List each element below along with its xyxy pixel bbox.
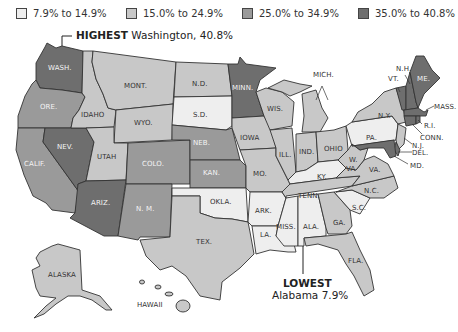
- lowest-value: Alabama 7.9%: [272, 289, 348, 301]
- label-neb: NEB.: [193, 139, 210, 147]
- label-nev: NEV.: [57, 143, 73, 151]
- label-miss: MISS.: [276, 223, 296, 231]
- label-la: LA.: [260, 231, 271, 239]
- label-hawaii: HAWAII: [137, 301, 163, 309]
- label-mont: MONT.: [124, 82, 147, 90]
- label-ind: IND.: [299, 148, 314, 156]
- label-sc: S.C.: [352, 204, 366, 212]
- us-choropleth-map: WASH. ORE. CALIF. NEV. IDAHO MONT. WYO. …: [0, 0, 458, 332]
- state-michigan-lower: [302, 90, 328, 132]
- label-nc: N.C.: [364, 187, 379, 195]
- label-nm: N. M.: [136, 205, 154, 213]
- state-hawaii-kauai: [140, 280, 145, 284]
- label-ark: ARK.: [255, 207, 272, 215]
- label-iowa: IOWA: [240, 134, 259, 142]
- md-leader-line: [394, 156, 408, 164]
- label-md: MD.: [410, 162, 424, 170]
- label-ga: GA.: [333, 219, 346, 227]
- label-del: DEL.: [412, 149, 428, 157]
- label-minn: MINN.: [232, 84, 253, 92]
- label-okla: OKLA.: [210, 198, 232, 206]
- label-va: VA.: [369, 166, 381, 174]
- label-mich: MICH.: [313, 71, 334, 79]
- label-sd: S.D.: [193, 111, 208, 119]
- mass-leader-line: [426, 106, 434, 110]
- label-mass: MASS.: [434, 103, 456, 111]
- label-utah: UTAH: [97, 153, 116, 161]
- label-wis: WIS.: [267, 105, 283, 113]
- label-fla: FLA.: [348, 257, 363, 265]
- label-colo: COLO.: [142, 160, 164, 168]
- label-ore: ORE.: [40, 103, 57, 111]
- label-ariz: ARIZ.: [91, 199, 110, 207]
- label-conn: CONN.: [420, 134, 444, 142]
- label-ky: KY.: [317, 173, 327, 181]
- label-vt: VT.: [388, 75, 399, 83]
- lowest-label: LOWEST: [283, 277, 348, 289]
- label-me: ME.: [417, 75, 430, 83]
- label-pa: PA.: [366, 134, 377, 142]
- label-tex: TEX.: [195, 238, 212, 246]
- label-wva-1: W.: [349, 156, 358, 164]
- label-ohio: OHIO: [324, 145, 343, 153]
- state-connecticut: [404, 116, 416, 126]
- highest-value: Washington, 40.8%: [131, 29, 233, 41]
- label-wva-2: VA: [346, 165, 355, 173]
- label-ala: ALA.: [303, 223, 319, 231]
- state-arizona: [70, 180, 126, 236]
- label-kan: KAN.: [203, 169, 220, 177]
- label-nh: N.H.: [396, 65, 411, 73]
- lowest-callout: LOWEST Alabama 7.9%: [282, 277, 348, 301]
- label-tenn: TENN.: [297, 192, 320, 200]
- label-wyo: WYO.: [134, 119, 153, 127]
- highest-callout: HIGHEST Washington, 40.8%: [76, 29, 233, 41]
- state-hawaii-maui: [165, 292, 173, 296]
- label-ny: N.Y.: [378, 112, 391, 120]
- nj-leader-line: [404, 138, 412, 144]
- label-ill: ILL.: [279, 151, 292, 159]
- label-wash: WASH.: [48, 64, 72, 72]
- label-alaska: ALASKA: [48, 271, 76, 279]
- label-mo: MO.: [253, 170, 267, 178]
- state-massachusetts: [404, 108, 428, 116]
- label-nd: N.D.: [192, 80, 207, 88]
- label-idaho: IDAHO: [81, 111, 105, 119]
- state-hawaii-island: [176, 300, 190, 312]
- state-hawaii-oahu: [155, 285, 161, 289]
- label-calif: CALIF.: [24, 160, 45, 168]
- label-ri: R.I.: [424, 122, 436, 130]
- state-alaska: [32, 244, 112, 318]
- highest-leader-line: [62, 36, 72, 46]
- conn-leader-line: [412, 124, 422, 134]
- highest-label: HIGHEST: [76, 29, 128, 41]
